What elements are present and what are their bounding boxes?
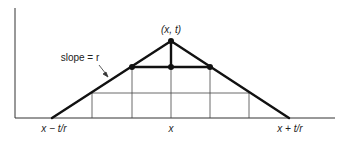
slope-arrow-icon — [99, 65, 108, 77]
x-left-label: x − t/r — [40, 123, 67, 134]
slope-label: slope = r — [61, 52, 100, 63]
x-center-label: x — [168, 123, 175, 134]
grid-lines — [92, 67, 249, 118]
apex-label: (x, t) — [161, 24, 181, 35]
stencil-lines — [132, 41, 210, 67]
x-right-label: x + t/r — [276, 123, 303, 134]
domain-of-dependence-diagram: (x, t) slope = r x − t/r x x + t/r — [0, 0, 347, 141]
